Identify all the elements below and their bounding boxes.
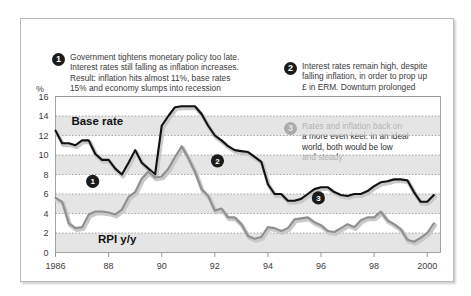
callout-1-bullet: 1 [52, 53, 65, 66]
screenshot-root: 1 Government tightens monetary policy to… [0, 0, 471, 296]
callout-1: 1 Government tightens monetary policy to… [52, 52, 267, 94]
callout-2-bullet: 2 [284, 62, 297, 75]
callout-1-text: Government tightens monetary policy too … [70, 52, 239, 94]
chart-card: 1 Government tightens monetary policy to… [20, 18, 454, 282]
callout-3-text: Rates and inflation back on a more even … [302, 121, 409, 163]
callout-2-text: Interest rates remain high, despite fall… [302, 61, 427, 92]
callout-3: 3 Rates and inflation back on a more eve… [284, 121, 462, 163]
y-axis-unit-label: % [36, 84, 44, 94]
callout-3-bullet: 3 [284, 122, 297, 135]
callout-2: 2 Interest rates remain high, despite fa… [284, 61, 464, 92]
